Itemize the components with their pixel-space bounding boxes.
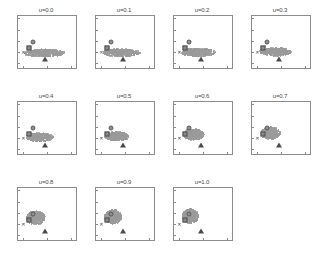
square-marker xyxy=(105,131,110,136)
y-tick-mark xyxy=(96,116,98,117)
y-tick-mark xyxy=(174,116,176,117)
panel-u-0-3: u=0.3✕151050-50510 xyxy=(237,6,311,78)
panel-title: u=0.7 xyxy=(251,92,309,101)
panel-title: u=0.3 xyxy=(251,6,309,15)
y-tick-mark xyxy=(252,116,254,117)
y-tick-mark xyxy=(96,41,98,42)
x-marker: ✕ xyxy=(177,136,181,140)
x-marker: ✕ xyxy=(21,50,25,54)
y-tick-mark xyxy=(252,30,254,31)
x-tick-mark xyxy=(257,66,258,68)
x-marker: ✕ xyxy=(21,222,25,226)
y-tick-mark xyxy=(18,52,20,53)
y-tick-mark xyxy=(18,41,20,42)
y-tick-mark xyxy=(18,149,20,150)
x-tick-mark xyxy=(281,66,282,68)
circle-marker xyxy=(30,211,35,216)
triangle-marker xyxy=(42,228,48,233)
x-tick-mark xyxy=(203,152,204,154)
x-marker: ✕ xyxy=(255,50,259,54)
circle-marker xyxy=(108,125,113,130)
y-tick-mark xyxy=(18,116,20,117)
circle-marker xyxy=(264,39,269,44)
y-tick-mark xyxy=(96,202,98,203)
circle-marker xyxy=(264,125,269,130)
x-tick-mark xyxy=(125,66,126,68)
x-tick-mark xyxy=(203,66,204,68)
y-tick-mark xyxy=(96,224,98,225)
square-marker xyxy=(105,45,110,50)
plot-area: ✕151050-50510 xyxy=(251,101,311,155)
y-tick-mark xyxy=(174,202,176,203)
x-tick-mark xyxy=(47,238,48,240)
triangle-marker xyxy=(198,142,204,147)
plot-area: ✕151050-50510 xyxy=(95,187,155,241)
panel-u-0-1: u=0.1✕151050-50510 xyxy=(81,6,155,78)
y-tick-mark xyxy=(96,127,98,128)
panel-u-0-0: u=0.0✕151050-50510 xyxy=(3,6,77,78)
y-tick-mark xyxy=(252,52,254,53)
y-tick-mark xyxy=(96,104,98,105)
x-tick-mark xyxy=(101,238,102,240)
panel-u-0-7: u=0.7✕151050-50510 xyxy=(237,92,311,164)
y-tick-mark xyxy=(96,213,98,214)
y-tick-mark xyxy=(96,63,98,64)
plot-area: ✕151050-50510 xyxy=(173,187,233,241)
circle-marker xyxy=(108,39,113,44)
y-tick-mark xyxy=(18,63,20,64)
square-marker xyxy=(183,131,188,136)
y-tick-mark xyxy=(174,18,176,19)
panel-title: u=0.0 xyxy=(17,6,75,15)
panel-title: u=1.0 xyxy=(173,178,231,187)
y-tick-mark xyxy=(174,41,176,42)
y-tick-mark xyxy=(18,30,20,31)
x-marker: ✕ xyxy=(99,136,103,140)
square-marker xyxy=(183,45,188,50)
x-tick-mark xyxy=(71,152,72,154)
square-marker xyxy=(261,131,266,136)
y-tick-mark xyxy=(18,202,20,203)
triangle-marker xyxy=(276,56,282,61)
plot-area: ✕151050-50510 xyxy=(251,15,311,69)
y-tick-mark xyxy=(18,138,20,139)
circle-marker xyxy=(108,211,113,216)
panel-u-0-8: u=0.8✕151050-50510 xyxy=(3,178,77,250)
x-tick-mark xyxy=(149,238,150,240)
panel-title: u=0.9 xyxy=(95,178,153,187)
square-marker xyxy=(105,217,110,222)
y-tick-mark xyxy=(174,235,176,236)
y-tick-mark xyxy=(18,213,20,214)
plot-area: ✕151050-50510 xyxy=(173,101,233,155)
panel-u-0-9: u=0.9✕151050-50510 xyxy=(81,178,155,250)
panel-title: u=0.2 xyxy=(173,6,231,15)
y-tick-mark xyxy=(96,149,98,150)
circle-marker xyxy=(186,39,191,44)
y-tick-mark xyxy=(174,30,176,31)
plot-area: ✕151050-50510 xyxy=(17,15,77,69)
plot-area: ✕151050-50510 xyxy=(17,187,77,241)
x-tick-mark xyxy=(281,152,282,154)
x-tick-mark xyxy=(71,66,72,68)
triangle-marker xyxy=(120,142,126,147)
y-tick-mark xyxy=(96,52,98,53)
y-tick-mark xyxy=(252,63,254,64)
square-marker xyxy=(183,217,188,222)
y-tick-mark xyxy=(96,30,98,31)
square-marker xyxy=(27,217,32,222)
y-tick-mark xyxy=(174,52,176,53)
panel-title: u=0.6 xyxy=(173,92,231,101)
x-tick-mark xyxy=(305,152,306,154)
x-tick-mark xyxy=(125,152,126,154)
y-tick-mark xyxy=(18,224,20,225)
circle-marker xyxy=(186,125,191,130)
x-tick-mark xyxy=(227,152,228,154)
square-marker xyxy=(27,131,32,136)
panel-u-1-0: u=1.0✕151050-50510 xyxy=(159,178,233,250)
y-tick-mark xyxy=(252,18,254,19)
plot-area: ✕151050-50510 xyxy=(173,15,233,69)
plot-area: ✕151050-50510 xyxy=(95,101,155,155)
x-marker: ✕ xyxy=(255,136,259,140)
x-tick-mark xyxy=(227,66,228,68)
circle-marker xyxy=(30,39,35,44)
x-tick-mark xyxy=(23,152,24,154)
